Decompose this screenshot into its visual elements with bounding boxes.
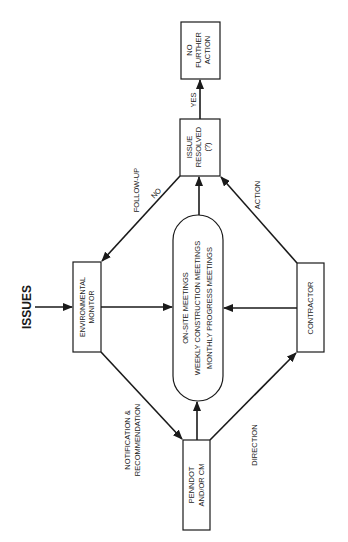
svg-text:FURTHER: FURTHER — [194, 32, 203, 68]
svg-text:ISSUE: ISSUE — [185, 136, 194, 159]
node-environmental-monitor — [73, 262, 101, 352]
direction-label: DIRECTION — [250, 424, 259, 465]
svg-text:CONTRACTOR: CONTRACTOR — [306, 281, 315, 334]
svg-text:FOLLOW-UP: FOLLOW-UP — [132, 168, 141, 212]
yes-label: YES — [189, 92, 198, 107]
no-label: NO — [149, 186, 163, 200]
svg-text:ON-SITE MEETINGS: ON-SITE MEETINGS — [181, 272, 190, 344]
notification-label: NOTIFICATION & RECOMMENDATION — [123, 404, 142, 476]
svg-text:ACTION: ACTION — [253, 181, 262, 209]
svg-text:RESOLVED: RESOLVED — [194, 126, 203, 167]
svg-text:ACTION: ACTION — [203, 36, 212, 64]
action-label: ACTION — [253, 181, 262, 209]
svg-text:WEEKLY CONSTRUCTION MEETINGS: WEEKLY CONSTRUCTION MEETINGS — [193, 241, 202, 375]
contractor-text: CONTRACTOR — [306, 281, 315, 334]
issues-label: ISSUES — [20, 285, 34, 329]
svg-text:NOTIFICATION &: NOTIFICATION & — [123, 410, 132, 469]
svg-text:(?): (?) — [203, 142, 212, 152]
svg-text:AND/OR CM: AND/OR CM — [197, 464, 206, 507]
svg-text:ENVIRONMENTAL: ENVIRONMENTAL — [79, 277, 86, 337]
svg-text:NO: NO — [149, 186, 163, 200]
penndot-text: PENNDOT AND/OR CM — [187, 464, 206, 507]
flowchart: NO FURTHER ACTION ISSUE RESOLVED (?) ENV… — [0, 0, 348, 542]
follow-up-label: FOLLOW-UP — [132, 168, 141, 212]
svg-text:NO: NO — [185, 44, 194, 55]
svg-text:YES: YES — [189, 92, 198, 107]
arrow-follow-up — [102, 176, 180, 261]
svg-text:MONITOR: MONITOR — [88, 291, 95, 324]
svg-text:RECOMMENDATION: RECOMMENDATION — [133, 404, 142, 476]
svg-text:PENNDOT: PENNDOT — [187, 466, 196, 503]
svg-text:MONTHLY PROGRESS MEETINGS: MONTHLY PROGRESS MEETINGS — [205, 247, 214, 369]
svg-text:DIRECTION: DIRECTION — [250, 424, 259, 465]
svg-text:ISSUES: ISSUES — [20, 285, 34, 329]
